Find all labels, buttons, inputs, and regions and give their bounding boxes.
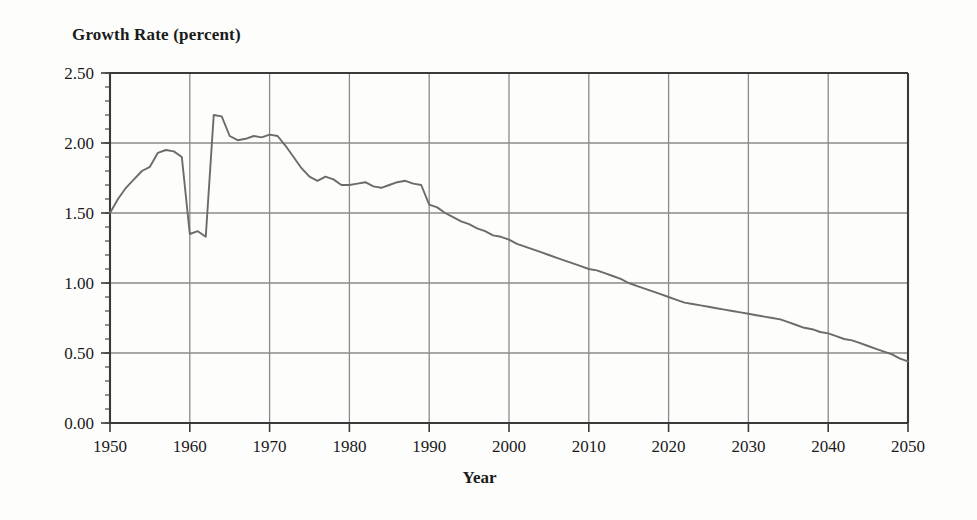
x-axis-title: Year bbox=[0, 468, 977, 488]
chart-page: Growth Rate (percent) 0.000.501.001.502.… bbox=[0, 0, 977, 520]
x-axis-title-text: Year bbox=[463, 468, 497, 487]
y-tick-label: 0.00 bbox=[64, 414, 94, 433]
x-tick-label: 1990 bbox=[412, 437, 446, 456]
x-tick-label: 1960 bbox=[173, 437, 207, 456]
x-tick-label: 2030 bbox=[731, 437, 765, 456]
y-tick-label: 1.00 bbox=[64, 274, 94, 293]
x-tick-label: 1950 bbox=[93, 437, 127, 456]
y-tick-label: 2.50 bbox=[64, 64, 94, 83]
x-tick-group bbox=[110, 73, 908, 432]
y-tick-label: 0.50 bbox=[64, 344, 94, 363]
x-tick-label: 1970 bbox=[253, 437, 287, 456]
x-tick-label: 1980 bbox=[332, 437, 366, 456]
y-axis-tick-labels: 0.000.501.001.502.002.50 bbox=[64, 64, 94, 433]
x-axis-tick-labels: 1950196019701980199020002010202020302040… bbox=[93, 437, 925, 456]
x-tick-label: 2050 bbox=[891, 437, 925, 456]
growth-rate-line-chart: 0.000.501.001.502.002.50 195019601970198… bbox=[0, 0, 977, 520]
x-tick-label: 2020 bbox=[652, 437, 686, 456]
gridline-group bbox=[101, 73, 908, 423]
y-tick-label: 1.50 bbox=[64, 204, 94, 223]
x-tick-label: 2040 bbox=[811, 437, 845, 456]
x-tick-label: 2000 bbox=[492, 437, 526, 456]
y-tick-label: 2.00 bbox=[64, 134, 94, 153]
x-tick-label: 2010 bbox=[572, 437, 606, 456]
